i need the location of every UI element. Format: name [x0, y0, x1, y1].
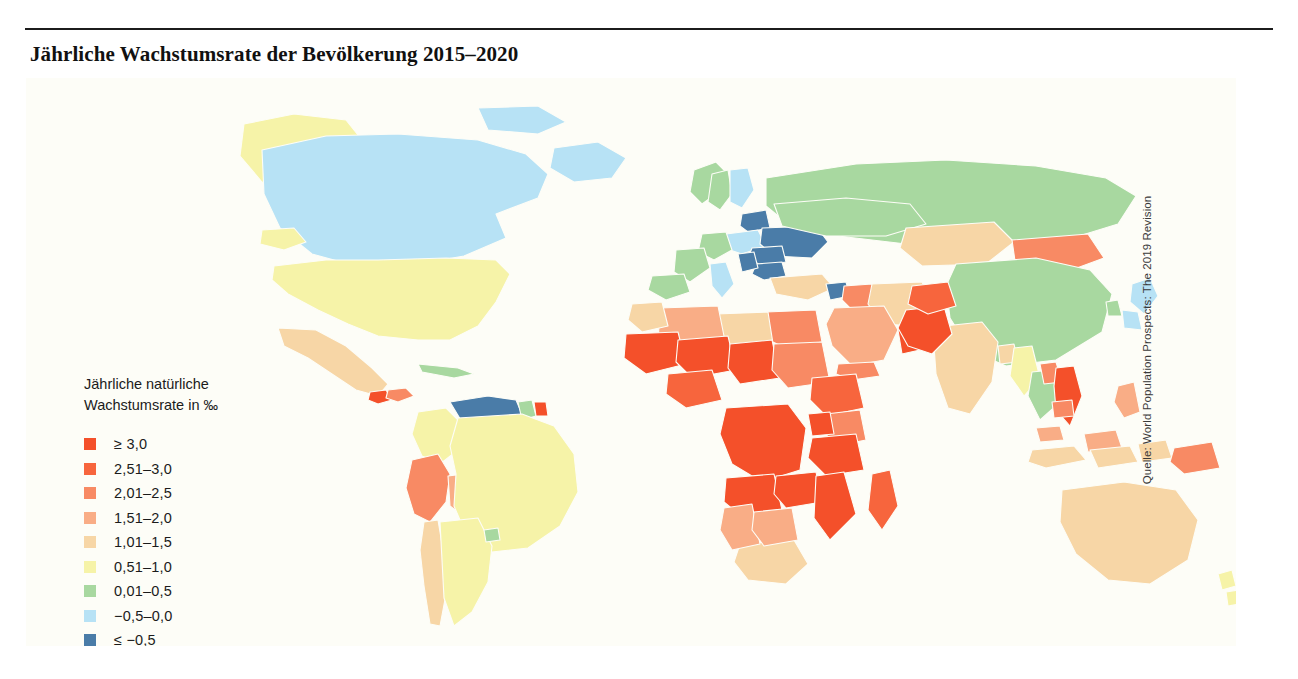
- legend-item: 0,01–0,5: [84, 579, 294, 604]
- legend-item: 2,51–3,0: [84, 457, 294, 482]
- map-region: Uruguay: [484, 528, 500, 542]
- legend-swatch: [84, 463, 96, 475]
- legend-item: 1,01–1,5: [84, 530, 294, 555]
- top-divider: [25, 28, 1273, 30]
- legend-item: 0,51–1,0: [84, 555, 294, 580]
- legend-label: ≤ −0,5: [114, 632, 156, 646]
- legend-item: 1,51–2,0: [84, 506, 294, 531]
- map-region: Malaysia: [1036, 426, 1064, 442]
- legend-item: ≥ 3,0: [84, 432, 294, 457]
- legend-swatch: [84, 512, 96, 524]
- map-region: Uganda: [808, 412, 834, 436]
- map-region: New Zealand: [1218, 570, 1236, 590]
- legend-label: 0,01–0,5: [114, 583, 172, 599]
- legend-swatch: [84, 634, 96, 646]
- legend-label: 2,51–3,0: [114, 461, 172, 477]
- legend-title: Jährliche natürliche Wachstumsrate in ‰: [84, 374, 294, 416]
- legend-swatch: [84, 561, 96, 573]
- legend-swatch: [84, 585, 96, 597]
- map-region: Cambodia: [1052, 400, 1074, 418]
- legend-swatch: [84, 487, 96, 499]
- world-map: GreenlandCanadaCanadaCanadaUnited States…: [26, 78, 1236, 646]
- legend-swatch: [84, 536, 96, 548]
- legend-swatch: [84, 610, 96, 622]
- legend-label: 1,51–2,0: [114, 510, 172, 526]
- page-title: Jährliche Wachstumsrate der Bevölkerung …: [30, 42, 518, 67]
- legend-label: ≥ 3,0: [114, 436, 147, 452]
- map-region: Suriname: [534, 402, 548, 416]
- source-note: Quelle: World Population Prospects: The …: [1142, 195, 1154, 484]
- legend-label: 1,01–1,5: [114, 534, 172, 550]
- legend-item: ≤ −0,5: [84, 628, 294, 646]
- legend-label: 0,51–1,0: [114, 559, 172, 575]
- legend: Jährliche natürliche Wachstumsrate in ‰ …: [84, 374, 294, 646]
- figure-root: Jährliche Wachstumsrate der Bevölkerung …: [0, 0, 1298, 679]
- legend-item: 2,01–2,5: [84, 481, 294, 506]
- legend-swatch: [84, 438, 96, 450]
- legend-label: −0,5–0,0: [114, 608, 172, 624]
- legend-label: 2,01–2,5: [114, 485, 172, 501]
- legend-rows: ≥ 3,02,51–3,02,01–2,51,51–2,01,01–1,50,5…: [84, 432, 294, 646]
- legend-item: −0,5–0,0: [84, 604, 294, 629]
- map-region: Serbia: [738, 252, 758, 272]
- map-region: New Zealand: [1226, 590, 1236, 606]
